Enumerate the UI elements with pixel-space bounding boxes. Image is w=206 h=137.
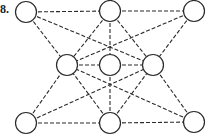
node-c bbox=[100, 55, 121, 76]
edge-br-ml bbox=[67, 65, 194, 122]
edge-tl-mr bbox=[26, 12, 153, 65]
edge-bm-br bbox=[110, 122, 194, 123]
graph-diagram bbox=[0, 0, 206, 137]
node-bm bbox=[100, 113, 121, 134]
edge-bl-mr bbox=[26, 65, 153, 123]
node-tm bbox=[100, 1, 121, 22]
node-mr bbox=[143, 55, 164, 76]
node-bl bbox=[16, 113, 37, 134]
node-tl bbox=[16, 2, 37, 23]
node-ml bbox=[57, 55, 78, 76]
node-br bbox=[184, 112, 205, 133]
edge-tr-ml bbox=[67, 11, 194, 65]
edge-tl-tm bbox=[26, 11, 110, 12]
node-tr bbox=[184, 1, 205, 22]
